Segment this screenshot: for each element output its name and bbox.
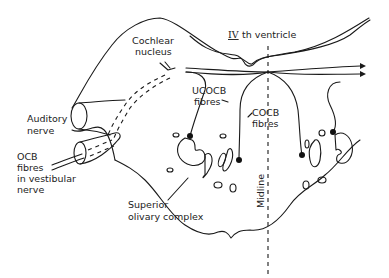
ucocb-label-2: fibres bbox=[194, 96, 221, 107]
auditory-dashed-2 bbox=[114, 78, 170, 138]
auditory-nerve-label-2: nerve bbox=[27, 125, 54, 136]
fibre-arrow-upper bbox=[186, 66, 360, 72]
ventricle-roman: IV bbox=[228, 29, 239, 40]
cochlear-nucleus-label-1: Cochlear bbox=[132, 35, 174, 46]
cocb-terminal-right bbox=[299, 152, 305, 158]
soc-pointer bbox=[168, 178, 188, 200]
brainstem-diagram: IV th ventricle Cochlear nucleus Auditor… bbox=[0, 0, 389, 278]
arrowhead-upper bbox=[360, 63, 366, 69]
cocb-label-1: COCB bbox=[252, 107, 279, 118]
soc-label-1: Superior bbox=[128, 199, 168, 210]
ucocb-terminal-right bbox=[330, 129, 336, 135]
ventricle-label: th ventricle bbox=[242, 29, 296, 40]
cocb-terminal-left bbox=[236, 157, 242, 163]
arrowhead-lower bbox=[360, 71, 366, 77]
auditory-nerve-end bbox=[71, 103, 87, 129]
midline-label: Midline bbox=[255, 174, 266, 208]
soc-nuclei-right bbox=[303, 130, 352, 189]
ocb-label-1: OCB bbox=[17, 151, 38, 162]
ucocb-fibre-right bbox=[328, 82, 340, 132]
ocb-label-4: nerve bbox=[17, 184, 44, 195]
cocb-label-2: fibres bbox=[252, 118, 279, 129]
cochlear-nucleus-label-2: nucleus bbox=[135, 46, 172, 57]
ventricle-floor bbox=[190, 18, 369, 66]
ucocb-label-1: UCOCB bbox=[192, 85, 226, 96]
auditory-dashed-1 bbox=[108, 75, 165, 135]
ocb-label-2: fibres bbox=[17, 162, 44, 173]
ocb-label-3: in vestibular bbox=[17, 173, 76, 184]
brainstem-outline-lower bbox=[115, 140, 360, 238]
cochlear-fork bbox=[160, 62, 175, 70]
ocb-fibres-line bbox=[52, 154, 84, 170]
soc-label-2: olivary complex bbox=[128, 211, 204, 222]
ucocb-pointer bbox=[222, 100, 228, 102]
ucocb-terminal-left bbox=[187, 133, 193, 139]
soc-nuclei-left bbox=[167, 133, 236, 192]
auditory-nerve-label-1: Auditory bbox=[27, 113, 68, 124]
